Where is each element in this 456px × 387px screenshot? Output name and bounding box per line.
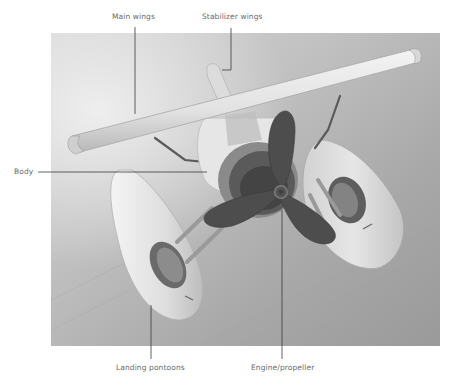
label-main-wings: Main wings — [112, 12, 155, 21]
label-landing-pontoons: Landing pontoons — [116, 363, 185, 372]
label-stabilizer-wings: Stabilizer wings — [202, 12, 263, 21]
seaplane-photo — [51, 33, 440, 346]
diagram-canvas — [0, 0, 456, 387]
label-engine-propeller: Engine/propeller — [251, 363, 314, 372]
labeled-diagram: Main wings Stabilizer wings Body Landing… — [0, 0, 456, 387]
label-body: Body — [14, 167, 33, 176]
